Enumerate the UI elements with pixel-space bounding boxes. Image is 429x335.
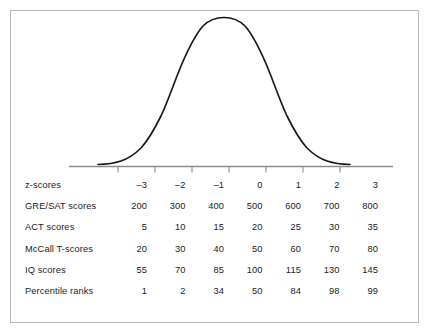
cell-value: 35 (348, 217, 387, 238)
cell-value: 30 (156, 238, 195, 259)
cell-value: 400 (194, 195, 233, 216)
row-label: IQ scores (11, 259, 117, 280)
bell-curve-path (98, 18, 350, 165)
cell-value: 130 (310, 259, 349, 280)
figure-panel: z-scores –3 –2 –1 0 1 2 3 GRE/SAT scores… (10, 10, 419, 323)
x-axis-ticks (118, 167, 340, 173)
cell-value: 70 (156, 259, 195, 280)
cell-value: 98 (310, 280, 349, 301)
cell-value: 40 (194, 238, 233, 259)
cell-value: 20 (233, 217, 272, 238)
cell-value: 1 (271, 174, 310, 195)
row-spacer (387, 195, 418, 216)
cell-value: 1 (117, 280, 156, 301)
cell-value: 55 (117, 259, 156, 280)
cell-value: 2 (156, 280, 195, 301)
row-label: Percentile ranks (11, 280, 117, 301)
cell-value: 10 (156, 217, 195, 238)
cell-value: 34 (194, 280, 233, 301)
table-row: Percentile ranks 1 2 34 50 84 98 99 (11, 280, 418, 301)
cell-value: 50 (233, 238, 272, 259)
normal-curve-plot (11, 11, 418, 176)
cell-value: 5 (117, 217, 156, 238)
row-label: GRE/SAT scores (11, 195, 117, 216)
cell-value: 99 (348, 280, 387, 301)
cell-value: 3 (348, 174, 387, 195)
cell-value: 600 (271, 195, 310, 216)
row-spacer (387, 238, 418, 259)
cell-value: 200 (117, 195, 156, 216)
cell-value: –1 (194, 174, 233, 195)
cell-value: 115 (271, 259, 310, 280)
cell-value: 80 (348, 238, 387, 259)
table-row: McCall T-scores 20 30 40 50 60 70 80 (11, 238, 418, 259)
cell-value: –2 (156, 174, 195, 195)
cell-value: –3 (117, 174, 156, 195)
score-scale-table: z-scores –3 –2 –1 0 1 2 3 GRE/SAT scores… (11, 174, 418, 302)
row-label: ACT scores (11, 217, 117, 238)
cell-value: 85 (194, 259, 233, 280)
cell-value: 500 (233, 195, 272, 216)
cell-value: 50 (233, 280, 272, 301)
cell-value: 145 (348, 259, 387, 280)
row-spacer (387, 217, 418, 238)
row-spacer (387, 174, 418, 195)
cell-value: 800 (348, 195, 387, 216)
cell-value: 60 (271, 238, 310, 259)
cell-value: 70 (310, 238, 349, 259)
cell-value: 25 (271, 217, 310, 238)
cell-value: 0 (233, 174, 272, 195)
table-row: IQ scores 55 70 85 100 115 130 145 (11, 259, 418, 280)
row-label: z-scores (11, 174, 117, 195)
row-spacer (387, 280, 418, 301)
row-label: McCall T-scores (11, 238, 117, 259)
table-row: ACT scores 5 10 15 20 25 30 35 (11, 217, 418, 238)
cell-value: 84 (271, 280, 310, 301)
cell-value: 30 (310, 217, 349, 238)
cell-value: 20 (117, 238, 156, 259)
row-spacer (387, 259, 418, 280)
cell-value: 15 (194, 217, 233, 238)
cell-value: 700 (310, 195, 349, 216)
table-row: GRE/SAT scores 200 300 400 500 600 700 8… (11, 195, 418, 216)
cell-value: 100 (233, 259, 272, 280)
cell-value: 2 (310, 174, 349, 195)
table-row: z-scores –3 –2 –1 0 1 2 3 (11, 174, 418, 195)
cell-value: 300 (156, 195, 195, 216)
